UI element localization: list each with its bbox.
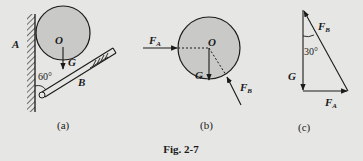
panel-b: FA O G FB (b): [143, 17, 252, 132]
sublabel-a: (a): [57, 119, 70, 132]
label-G-c: G: [288, 70, 296, 82]
angle-arc-60: [35, 86, 46, 90]
panel-c: FB 30° G FA (c): [288, 10, 348, 134]
angle-arc-30: [303, 35, 314, 37]
force-b-arrow: [227, 77, 241, 105]
hinge-pin: [39, 92, 45, 98]
label-FB-c: FB: [317, 20, 330, 34]
label-A: A: [11, 38, 19, 50]
figure-caption: Fig. 2-7: [163, 143, 199, 155]
sublabel-b: (b): [200, 119, 213, 132]
label-B: B: [77, 76, 85, 88]
label-G-b: G: [195, 69, 203, 81]
wall-hatch: [27, 14, 35, 112]
panel-a: A O G 60° B (a): [11, 6, 116, 132]
figure-canvas: A O G 60° B (a) FA O G FB (b) F: [0, 0, 363, 161]
label-FA-b: FA: [148, 34, 161, 48]
label-G: G: [68, 56, 76, 68]
sublabel-c: (c): [298, 121, 311, 134]
label-O: O: [55, 34, 63, 46]
label-30deg: 30°: [304, 46, 318, 57]
label-60deg: 60°: [38, 71, 52, 82]
label-FB-b: FB: [239, 81, 252, 95]
label-O-b: O: [208, 36, 216, 48]
label-FA-c: FA: [324, 96, 337, 110]
